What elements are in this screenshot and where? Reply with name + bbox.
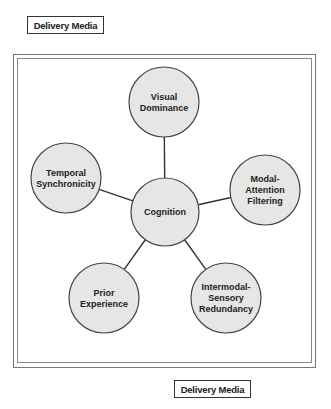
node-label: Redundancy <box>199 304 253 314</box>
node-intermodal-sensory-redundancy: Intermodal-SensoryRedundancy <box>191 263 261 333</box>
node-label: Attention <box>245 185 285 195</box>
node-prior-experience: PriorExperience <box>69 263 139 333</box>
node-label: Intermodal- <box>201 282 250 292</box>
cognition-diagram: CognitionVisualDominanceTemporalSynchron… <box>0 0 331 409</box>
node-label: Synchronicity <box>36 179 96 189</box>
node-label: Cognition <box>144 207 186 217</box>
node-label: Modal- <box>251 174 280 184</box>
edge-cognition-temporal-synchronicity <box>99 189 133 201</box>
node-modal-attention-filtering: Modal-AttentionFiltering <box>230 155 300 225</box>
node-label: Filtering <box>247 196 283 206</box>
node-label: Sensory <box>208 293 244 303</box>
diagram-nodes: CognitionVisualDominanceTemporalSynchron… <box>31 67 300 333</box>
node-visual-dominance: VisualDominance <box>129 67 199 137</box>
edge-cognition-prior-experience <box>124 240 145 270</box>
node-temporal-synchronicity: TemporalSynchronicity <box>31 143 101 213</box>
node-label: Experience <box>80 299 128 309</box>
node-label: Dominance <box>140 103 189 113</box>
bottom-delivery-media-label: Delivery Media <box>174 380 251 398</box>
edge-cognition-modal-attention-filtering <box>198 198 231 205</box>
node-label: Prior <box>93 288 115 298</box>
node-label: Temporal <box>46 168 86 178</box>
node-label: Visual <box>151 92 177 102</box>
node-cognition: Cognition <box>131 178 199 246</box>
edge-cognition-intermodal-sensory-redundancy <box>185 240 206 270</box>
